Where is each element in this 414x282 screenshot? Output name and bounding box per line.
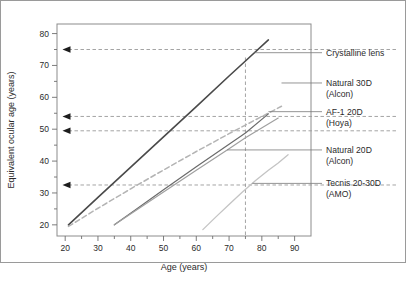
legend-label-4: Natural 20D [326, 145, 372, 155]
y-tick-label: 70 [40, 60, 50, 70]
y-tick-label: 50 [40, 124, 50, 134]
legend-sublabel-3: (Hoya) [326, 118, 352, 128]
y-axis-ticks: 20304050607080 [40, 29, 57, 230]
x-axis-title: Age (years) [161, 262, 208, 272]
legend-label-5: Tecnis 20-30D [326, 178, 381, 188]
x-tick-label: 70 [224, 243, 234, 253]
series-line-1 [68, 40, 268, 225]
x-tick-label: 90 [290, 243, 300, 253]
y-tick-label: 30 [40, 188, 50, 198]
figure-container: 20304050607080 2030405060708090 Crystall… [0, 0, 414, 282]
data-series [68, 40, 288, 230]
series-line-4 [114, 118, 278, 225]
reference-arrow-marker [62, 128, 70, 134]
reference-arrow-marker [62, 182, 70, 188]
y-tick-label: 80 [40, 29, 50, 39]
legend-sublabel-2: (Alcon) [326, 89, 353, 99]
x-tick-label: 40 [126, 243, 136, 253]
x-axis-ticks: 2030405060708090 [60, 236, 299, 253]
legend-sublabel-4: (Alcon) [326, 156, 353, 166]
x-tick-label: 30 [93, 243, 103, 253]
x-tick-label: 60 [192, 243, 202, 253]
legend-label-3: AF-1 20D [326, 107, 363, 117]
y-tick-label: 20 [40, 220, 50, 230]
figure-border [1, 1, 406, 263]
plot-frame [57, 24, 311, 236]
ocular-age-chart: 20304050607080 2030405060708090 Crystall… [0, 0, 414, 282]
reference-arrow-marker [62, 46, 70, 52]
legend-label-1: Crystalline lens [326, 48, 384, 58]
y-tick-label: 60 [40, 92, 50, 102]
x-tick-label: 80 [257, 243, 267, 253]
x-tick-label: 50 [159, 243, 169, 253]
y-axis-title: Equivalent ocular age (years) [6, 71, 16, 188]
x-tick-label: 20 [60, 243, 70, 253]
y-tick-label: 40 [40, 156, 50, 166]
series-line-2 [68, 106, 281, 226]
reference-arrow-marker [62, 113, 70, 119]
legend-label-2: Natural 30D [326, 78, 372, 88]
legend-sublabel-5: (AMO) [326, 189, 351, 199]
callout-leaders [227, 53, 322, 184]
legend-labels: Crystalline lensNatural 30D(Alcon)AF-1 2… [326, 48, 384, 200]
